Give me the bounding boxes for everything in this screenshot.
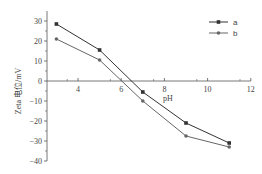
svg-text:4: 4 [76,85,80,94]
svg-text:a: a [233,18,238,27]
svg-text:−10: −10 [29,97,42,106]
svg-text:b: b [233,29,238,38]
svg-text:10: 10 [204,85,212,94]
svg-text:pH: pH [163,94,173,103]
svg-text:10: 10 [34,57,42,66]
legend: ab [209,18,238,38]
svg-text:Zeta 电位/mV: Zeta 电位/mV [13,68,23,115]
svg-text:6: 6 [119,85,123,94]
svg-text:0: 0 [38,77,42,86]
svg-text:−40: −40 [29,157,42,166]
svg-text:30: 30 [34,17,42,26]
chart: 3020100−10−20−30−404681012pHZeta 电位/mV a… [0,0,262,174]
svg-text:−20: −20 [29,117,42,126]
svg-text:12: 12 [247,85,255,94]
svg-text:20: 20 [34,37,42,46]
svg-text:−30: −30 [29,137,42,146]
svg-text:8: 8 [162,85,166,94]
